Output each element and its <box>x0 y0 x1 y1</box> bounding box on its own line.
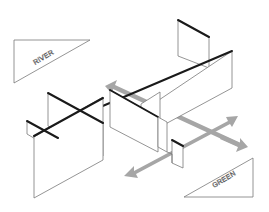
green-marker: GREEN <box>184 158 253 197</box>
river-marker: RIVER <box>14 40 90 83</box>
u-fold-panel <box>158 117 183 168</box>
river-triangle-icon <box>14 40 90 83</box>
left-structure <box>27 93 103 198</box>
upper-back-panel <box>178 20 209 68</box>
isometric-diagram: RIVER GREEN <box>0 0 269 212</box>
diagram-canvas: RIVER GREEN <box>0 0 269 212</box>
